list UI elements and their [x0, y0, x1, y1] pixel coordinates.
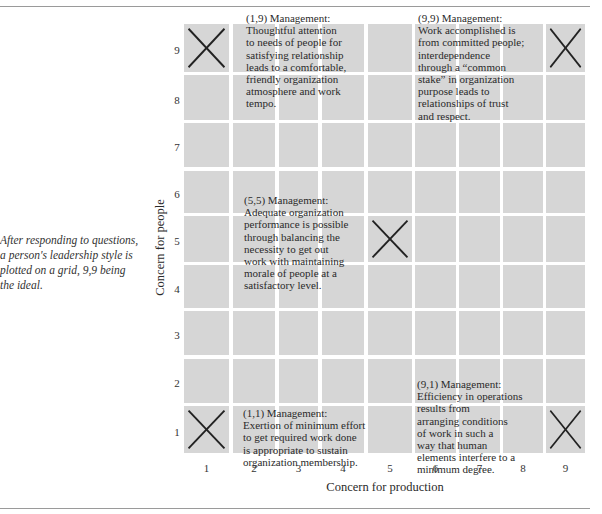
grid-cell-6-3: [415, 311, 456, 355]
description-line: stake” in organization: [418, 73, 524, 85]
description-line: satisfying relationship: [246, 49, 346, 61]
grid-cell-4-2: [322, 359, 364, 403]
y-tick-label: 8: [169, 94, 185, 106]
grid-cell-9-3: [546, 311, 585, 355]
grid-cell-4-3: [322, 311, 364, 355]
grid-cell-3-3: [279, 311, 318, 355]
description-line: of work in such a: [417, 427, 522, 439]
grid-cell-5-6: [368, 171, 412, 213]
grid-cell-8-3: [503, 311, 543, 355]
y-tick-label: 4: [169, 283, 185, 295]
grid-cell-9-8: [546, 75, 585, 120]
y-tick-label: 6: [169, 188, 185, 200]
grid-cell-1-4: [184, 265, 229, 308]
y-axis-label: Concern for people: [153, 188, 168, 308]
x-mark-icon: [187, 27, 226, 69]
grid-cell-1-3: [184, 311, 229, 355]
grid-cell-6-7: [415, 123, 456, 167]
grid-cell-5-2: [368, 359, 412, 403]
description-line: through a “common: [418, 61, 524, 73]
description-9-1: (9,1) Management:Efficiency in operation…: [417, 378, 522, 476]
figure-caption: After responding to questions, a person'…: [0, 233, 140, 293]
grid-cell-6-6: [415, 171, 456, 213]
description-line: (9,1) Management:: [417, 378, 522, 390]
x-tick-label: 5: [382, 462, 398, 474]
grid-cell-9-2: [546, 359, 585, 403]
grid-cell-8-7: [503, 123, 543, 167]
x-tick-label: 3: [291, 462, 307, 474]
x-tick-label: 4: [335, 462, 351, 474]
grid-cell-5-4: [368, 265, 412, 308]
grid-cell-9-6: [546, 171, 585, 213]
x-tick-label: 2: [246, 462, 262, 474]
grid-cell-1-8: [184, 75, 229, 120]
x-tick-label: 9: [558, 462, 574, 474]
description-line: relationships of trust: [418, 97, 524, 109]
description-line: morale of people at a: [244, 267, 348, 279]
grid-cell-5-3: [368, 311, 412, 355]
description-line: performance is possible: [244, 218, 348, 230]
description-1-1: (1,1) Management:Exertion of minimum eff…: [243, 407, 365, 468]
description-line: Adequate organization: [244, 206, 348, 218]
description-line: and respect.: [418, 110, 524, 122]
description-line: from committed people;: [418, 36, 524, 48]
y-tick-label: 9: [169, 44, 185, 56]
x-tick-label: 8: [515, 462, 531, 474]
description-line: purpose leads to: [418, 85, 524, 97]
grid-cell-7-6: [459, 171, 500, 213]
grid-cell-3-2: [279, 359, 318, 403]
description-line: Work accomplished is: [418, 24, 524, 36]
grid-cell-5-9: [368, 24, 412, 72]
y-tick-label: 7: [169, 141, 185, 153]
grid-cell-9-5: [546, 216, 585, 262]
grid-cell-8-5: [503, 216, 543, 262]
description-line: to needs of people for: [246, 36, 346, 48]
grid-cell-1-5: [184, 216, 229, 262]
grid-cell-5-1: [368, 406, 412, 453]
description-line: to get required work done: [243, 431, 365, 443]
x-mark-icon: [549, 27, 582, 69]
description-line: (5,5) Management:: [244, 194, 348, 206]
x-tick-label: 7: [472, 462, 488, 474]
description-line: way that human: [417, 439, 522, 451]
y-tick-label: 1: [169, 426, 185, 438]
description-1-9: (1,9) Management:Thoughtful attentionto …: [246, 12, 346, 110]
grid-cell-5-8: [368, 75, 412, 120]
description-line: arranging conditions: [417, 415, 522, 427]
top-rule: [0, 6, 590, 7]
grid-cell-1-6: [184, 171, 229, 213]
x-mark-icon: [371, 219, 409, 259]
x-mark-icon: [549, 409, 582, 450]
description-line: atmosphere and work: [246, 85, 346, 97]
grid-cell-8-4: [503, 265, 543, 308]
description-line: through balancing the: [244, 231, 348, 243]
x-mark-icon: [187, 409, 226, 450]
grid-cell-5-7: [368, 123, 412, 167]
x-axis-label: Concern for production: [300, 480, 470, 495]
grid-cell-7-3: [459, 311, 500, 355]
description-line: Exertion of minimum effort: [243, 419, 365, 431]
x-tick-label: 6: [428, 462, 444, 474]
description-9-9: (9,9) Management:Work accomplished isfro…: [418, 12, 524, 122]
description-line: (9,9) Management:: [418, 12, 524, 24]
description-line: friendly organization: [246, 73, 346, 85]
description-line: Efficiency in operations: [417, 390, 522, 402]
description-line: results from: [417, 402, 522, 414]
grid-cell-2-7: [233, 123, 275, 167]
grid-cell-7-4: [459, 265, 500, 308]
y-tick-label: 3: [169, 329, 185, 341]
grid-cell-9-7: [546, 123, 585, 167]
grid-cell-1-7: [184, 123, 229, 167]
grid-cell-7-7: [459, 123, 500, 167]
description-line: interdependence: [418, 49, 524, 61]
y-tick-label: 5: [169, 235, 185, 247]
description-line: Thoughtful attention: [246, 24, 346, 36]
description-line: (1,9) Management:: [246, 12, 346, 24]
description-line: (1,1) Management:: [243, 407, 365, 419]
bottom-rule: [0, 508, 590, 509]
description-line: tempo.: [246, 97, 346, 109]
grid-cell-6-4: [415, 265, 456, 308]
y-tick-label: 2: [169, 377, 185, 389]
x-tick-label: 1: [199, 462, 215, 474]
grid-cell-8-6: [503, 171, 543, 213]
